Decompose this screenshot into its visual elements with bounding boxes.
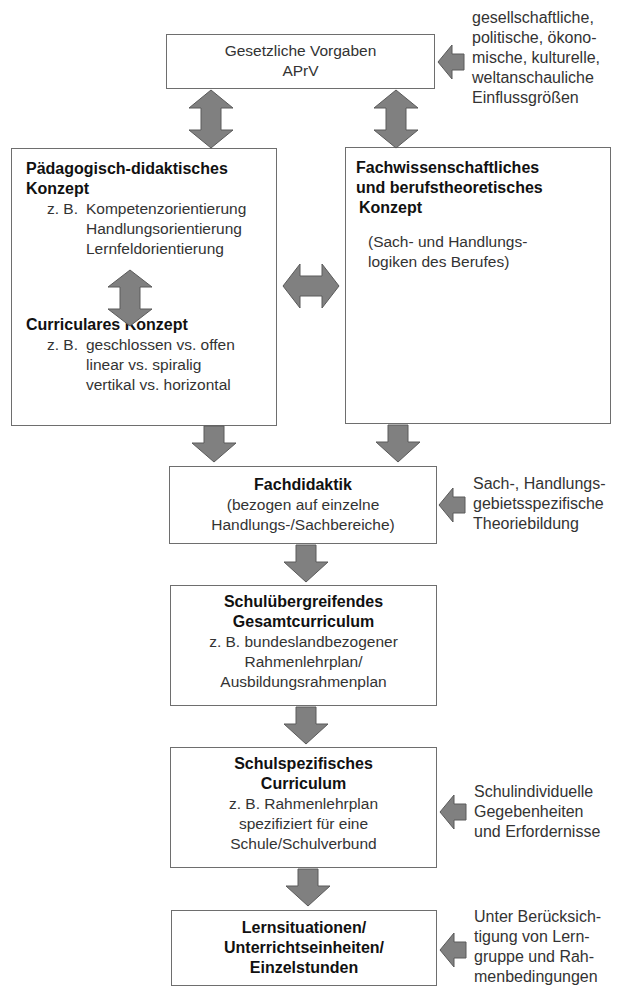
influence-legal-text: gesellschaftliche, politische, ökono- mi… xyxy=(472,8,600,108)
arrow-down-icon xyxy=(284,707,328,744)
influence-lessons-text: Unter Berücksich- tigung von Lern- grupp… xyxy=(474,907,601,987)
arrow-left-icon xyxy=(440,795,466,829)
example-item: geschlossen vs. offen xyxy=(86,335,235,355)
subject-title: Konzept xyxy=(356,198,610,218)
influence-line: Unter Berücksich- xyxy=(474,907,601,927)
influence-line: Theoriebildung xyxy=(473,514,606,534)
arrow-down-icon xyxy=(376,425,420,462)
overall-curriculum-desc: z. B. bundeslandbezogener xyxy=(171,632,436,652)
influence-line: Einflussgrößen xyxy=(472,88,600,108)
legal-requirements-box: Gesetzliche Vorgaben APrV xyxy=(166,34,435,89)
subject-desc: logiken des Berufes) xyxy=(356,252,610,272)
overall-curriculum-desc: Ausbildungsrahmenplan xyxy=(171,672,436,692)
influence-line: Sach-, Handlungs- xyxy=(473,474,606,494)
example-item: linear vs. spiralig xyxy=(86,355,235,375)
influence-line: weltanschauliche xyxy=(472,68,600,88)
legal-title: Gesetzliche Vorgaben xyxy=(167,41,434,61)
arrow-left-icon xyxy=(439,488,465,522)
pedagogical-title: Pädagogisch-didaktisches xyxy=(26,159,276,179)
subject-concept-box: Fachwissenschaftliches und berufstheoret… xyxy=(345,147,611,424)
influence-line: Gegebenheiten xyxy=(474,802,600,822)
school-curriculum-title: Curriculum xyxy=(171,774,436,794)
influence-line: menbedingungen xyxy=(474,967,601,987)
arrow-down-icon xyxy=(284,545,328,582)
didactics-desc: (bezogen auf einzelne xyxy=(170,495,436,515)
influence-didactics-text: Sach-, Handlungs- gebietsspezifische The… xyxy=(473,474,606,534)
double-arrow-vertical-icon xyxy=(373,90,419,148)
pedagogical-title: Konzept xyxy=(26,179,276,199)
subject-title: und berufstheoretisches xyxy=(356,178,610,198)
example-item: Kompetenzorientierung xyxy=(86,199,246,219)
school-curriculum-box: Schulspezifisches Curriculum z. B. Rahme… xyxy=(170,747,437,868)
influence-line: tigung von Lern- xyxy=(474,927,601,947)
school-curriculum-desc: spezifiziert für eine xyxy=(171,814,436,834)
overall-curriculum-box: Schulübergreifendes Gesamtcurriculum z. … xyxy=(170,585,437,706)
school-curriculum-desc: Schule/Schulverbund xyxy=(171,834,436,854)
lessons-box: Lernsituationen/ Unterrichtseinheiten/ E… xyxy=(171,910,437,986)
double-arrow-vertical-icon xyxy=(188,90,234,148)
legal-subtitle: APrV xyxy=(167,61,434,81)
lessons-title: Lernsituationen/ xyxy=(172,918,436,938)
example-item: Handlungsorientierung xyxy=(86,219,246,239)
overall-curriculum-title: Schulübergreifendes xyxy=(171,592,436,612)
influence-line: Schulindividuelle xyxy=(474,782,600,802)
subject-title: Fachwissenschaftliches xyxy=(356,158,610,178)
double-arrow-vertical-icon xyxy=(107,270,153,326)
example-label: z. B. xyxy=(12,335,86,395)
influence-line: mische, kulturelle, xyxy=(472,48,600,68)
influence-line: gebietsspezifische xyxy=(473,494,606,514)
arrow-left-icon xyxy=(438,45,464,79)
didactics-desc: Handlungs-/Sachbereiche) xyxy=(170,515,436,535)
influence-school-text: Schulindividuelle Gegebenheiten und Erfo… xyxy=(474,782,600,842)
arrow-left-icon xyxy=(440,933,466,967)
influence-line: gesellschaftliche, xyxy=(472,8,600,28)
subject-didactics-box: Fachdidaktik (bezogen auf einzelne Handl… xyxy=(169,466,437,544)
influence-line: und Erfordernisse xyxy=(474,822,600,842)
school-curriculum-desc: z. B. Rahmenlehrplan xyxy=(171,794,436,814)
example-item: Lernfeldorientierung xyxy=(86,239,246,259)
lessons-title: Einzelstunden xyxy=(172,958,436,978)
didactics-title: Fachdidaktik xyxy=(170,475,436,495)
overall-curriculum-title: Gesamtcurriculum xyxy=(171,612,436,632)
example-item: vertikal vs. horizontal xyxy=(86,375,235,395)
arrow-down-icon xyxy=(286,869,330,906)
lessons-title: Unterrichtseinheiten/ xyxy=(172,938,436,958)
influence-line: gruppe und Rah- xyxy=(474,947,601,967)
double-arrow-horizontal-icon xyxy=(283,263,339,309)
arrow-down-icon xyxy=(192,426,236,462)
overall-curriculum-desc: Rahmenlehrplan/ xyxy=(171,652,436,672)
subject-desc: (Sach- und Handlungs- xyxy=(356,232,610,252)
example-label: z. B. xyxy=(12,199,86,259)
school-curriculum-title: Schulspezifisches xyxy=(171,754,436,774)
influence-line: politische, ökono- xyxy=(472,28,600,48)
